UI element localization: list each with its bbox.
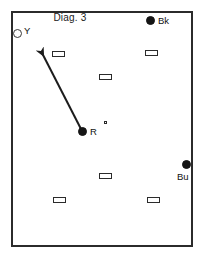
cone-marker xyxy=(53,197,66,203)
player-label-red: R xyxy=(90,127,97,137)
player-label-blue: Bu xyxy=(177,172,189,182)
cone-marker xyxy=(145,50,158,56)
field-frame xyxy=(11,11,193,247)
player-token-yellow[interactable] xyxy=(13,29,22,38)
player-token-black[interactable] xyxy=(146,16,155,25)
cone-marker xyxy=(52,51,65,57)
degree-mark-icon xyxy=(104,121,107,124)
player-token-red[interactable] xyxy=(78,127,87,136)
player-label-black: Bk xyxy=(158,16,169,26)
cone-marker xyxy=(99,173,112,179)
diagram-title: Diag. 3 xyxy=(0,12,140,23)
cone-marker xyxy=(99,74,112,80)
player-label-yellow: Y xyxy=(24,26,30,36)
diagram-canvas: Diag. 3 Y Bk R Bu xyxy=(0,0,204,258)
player-token-blue[interactable] xyxy=(182,160,191,169)
cone-marker xyxy=(147,197,160,203)
